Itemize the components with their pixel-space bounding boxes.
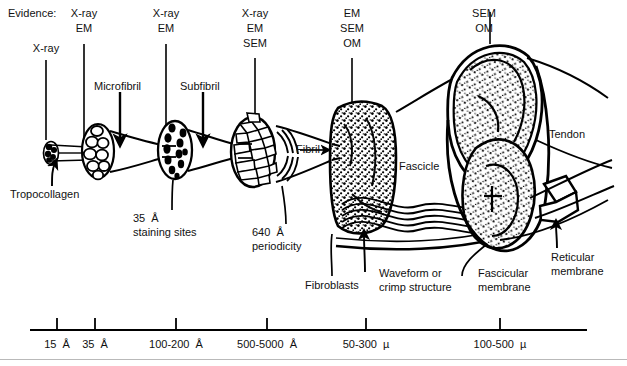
fascicular-membrane-line2: membrane <box>478 281 531 294</box>
collagen-hierarchy-illustration <box>0 0 627 366</box>
evidence-microfibril-line2: EM <box>60 22 108 35</box>
scale-tick-label-4: 500-5000 Å <box>223 338 311 351</box>
crimp-label-line2: crimp structure <box>379 281 452 294</box>
scale-tick-label-6: 100-500 µ <box>460 338 540 351</box>
scale-tick-label-3: 100-200 Å <box>136 338 216 351</box>
fascicle-label: Fascicle <box>399 160 439 173</box>
evidence-subfibril-line2: EM <box>142 22 190 35</box>
scale-axis <box>30 318 587 330</box>
scale-tick-label-2: 35 Å <box>71 338 119 351</box>
evidence-header: Evidence: <box>8 7 56 20</box>
staining-sites-value: 35 Å <box>133 212 159 225</box>
evidence-fibril-line3: SEM <box>231 37 279 50</box>
evidence-fibril-line1: X-ray <box>231 7 279 20</box>
periodicity-value: 640 Å <box>252 226 284 239</box>
figure-bottom-rule <box>0 359 627 360</box>
fascicular-membrane-line1: Fascicular <box>478 267 528 280</box>
evidence-fascicle-line2: SEM <box>328 22 376 35</box>
subfibril-unit <box>231 113 332 224</box>
scale-ticks <box>57 318 500 330</box>
microfibril-unit <box>82 124 162 179</box>
subfibril-label: Subfibril <box>180 80 220 93</box>
reticular-membrane-line2: membrane <box>551 265 604 278</box>
fibril-label: Fibril <box>296 143 320 156</box>
evidence-microfibril-line1: X-ray <box>60 7 108 20</box>
reticular-membrane-line1: Reticular <box>551 251 594 264</box>
crimp-label-line1: Waveform or <box>379 267 442 280</box>
tendon-unit <box>447 46 612 251</box>
periodicity-label: periodicity <box>252 240 302 253</box>
evidence-tendon-line2: OM <box>460 22 508 35</box>
evidence-tendon-line1: SEM <box>460 7 508 20</box>
evidence-subfibril-line1: X-ray <box>142 7 190 20</box>
tropocollagen-label: Tropocollagen <box>10 188 79 201</box>
tendon-label: Tendon <box>549 128 585 141</box>
evidence-tropocollagen-line1: X-ray <box>22 42 70 55</box>
figure-canvas: Evidence: X-ray X-ray EM X-ray EM X-ray … <box>0 0 627 366</box>
evidence-fibril-line2: EM <box>231 22 279 35</box>
evidence-fascicle-line1: EM <box>328 7 376 20</box>
fibroblasts-label: Fibroblasts <box>305 279 359 292</box>
staining-sites-unit <box>158 121 238 210</box>
staining-sites-label: staining sites <box>133 226 197 239</box>
microfibril-label: Microfibril <box>94 80 141 93</box>
evidence-fascicle-line3: OM <box>328 37 376 50</box>
scale-tick-label-5: 50-300 µ <box>328 338 404 351</box>
